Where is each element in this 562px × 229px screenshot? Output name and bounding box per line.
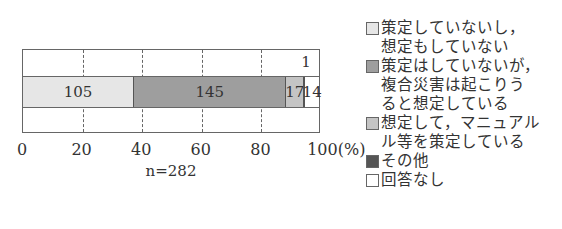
x-tick-label: 60 (191, 140, 211, 159)
sample-size-label: n=282 (146, 162, 197, 180)
bar-segment-label: 17 (285, 83, 304, 101)
x-tick-label: 100(%) (307, 140, 365, 159)
legend-label: 策定はしていないが， 複合災害は起こりう ると想定している (381, 57, 540, 114)
x-tick-label: 40 (131, 140, 151, 159)
bar-segment: 105 (23, 77, 133, 107)
plot-area: 10514517114 (22, 49, 320, 133)
legend-label: 回答なし (381, 171, 445, 190)
legend-item: その他 (366, 152, 540, 171)
legend-swatch-icon (366, 22, 379, 35)
legend-label: 策定していないし， 想定もしていない (381, 19, 525, 57)
x-tick-label: 0 (17, 140, 27, 159)
legend-label: 想定して，マニュアル ル等を策定している (381, 114, 540, 152)
legend-swatch-icon (366, 117, 379, 130)
legend-item: 回答なし (366, 171, 540, 190)
legend-item: 策定はしていないが， 複合災害は起こりう ると想定している (366, 57, 540, 114)
bar-segment: 14 (304, 77, 319, 107)
legend-item: 想定して，マニュアル ル等を策定している (366, 114, 540, 152)
bar-segment-label: 1 (301, 53, 311, 71)
legend-swatch-icon (366, 174, 379, 187)
bar-segment: 145 (133, 77, 285, 107)
bar-segment-label: 14 (303, 83, 322, 101)
bar-segment: 17 (285, 77, 303, 107)
x-tick-label: 20 (71, 140, 91, 159)
bar-segment-label: 105 (64, 83, 93, 101)
legend-swatch-icon (366, 60, 379, 73)
legend-item: 策定していないし， 想定もしていない (366, 19, 540, 57)
legend-swatch-icon (366, 155, 379, 168)
stacked-bar: 10514517114 (23, 76, 319, 108)
bar-segment-label: 145 (195, 83, 224, 101)
x-tick-label: 80 (250, 140, 270, 159)
legend-label: その他 (381, 152, 429, 171)
legend: 策定していないし， 想定もしていない策定はしていないが， 複合災害は起こりう る… (366, 19, 540, 190)
